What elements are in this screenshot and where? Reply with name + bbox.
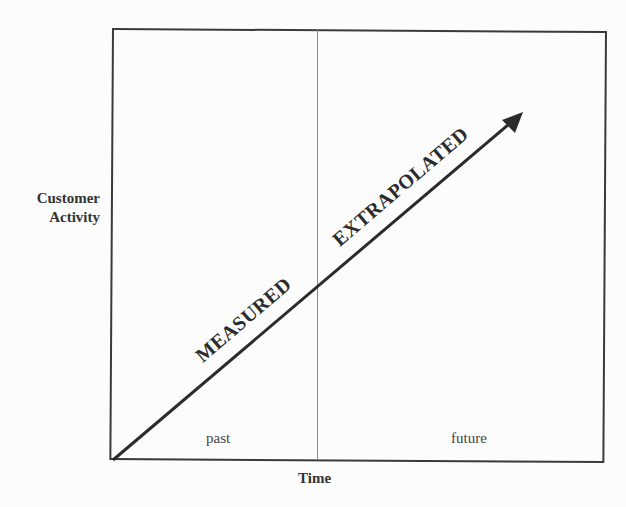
region-label-past: past [206, 430, 230, 447]
x-axis-label: Time [298, 470, 331, 487]
plot-frame [109, 28, 607, 463]
past-future-divider [317, 29, 318, 460]
y-axis-label: Customer Activity [37, 189, 100, 227]
y-axis-label-line2: Activity [37, 208, 100, 227]
region-label-future: future [451, 430, 487, 447]
y-axis-label-line1: Customer [37, 189, 100, 208]
